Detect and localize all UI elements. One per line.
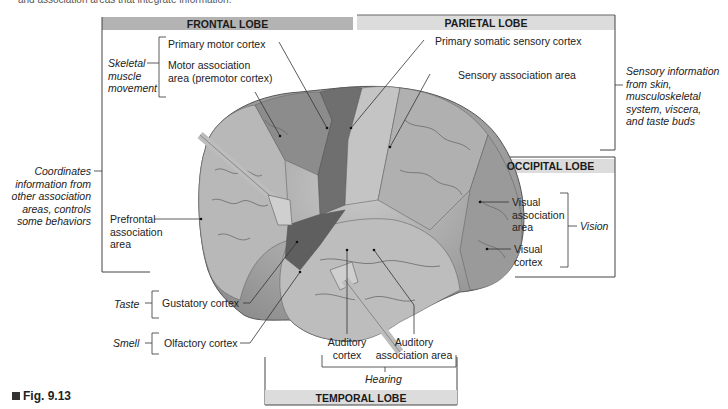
parietal-lobe-header: PARIETAL LOBE — [357, 16, 615, 30]
label-motor-association-area: Motor association area (premotor cortex) — [168, 59, 272, 84]
function-skeletal-muscle-movement: Skeletal muscle movement — [108, 57, 157, 95]
label-prefrontal-association-area: Prefrontal association area — [110, 213, 163, 251]
label-line: and taste buds — [626, 115, 719, 128]
label-visual-cortex: Visual cortex — [514, 243, 543, 268]
label-olfactory-cortex: Olfactory cortex — [164, 337, 238, 350]
label-line: Auditory — [374, 336, 454, 349]
label-line: from skin, — [626, 78, 719, 91]
function-sensory-information: Sensory information from skin, musculosk… — [626, 65, 719, 128]
figure-label-text: Fig. 9.13 — [23, 389, 71, 403]
function-vision: Vision — [580, 220, 608, 233]
label-line: Visual — [512, 196, 565, 209]
temporal-lobe-header: TEMPORAL LOBE — [265, 391, 457, 405]
label-gustatory-cortex: Gustatory cortex — [162, 297, 239, 310]
label-line: some behaviors — [0, 215, 91, 228]
label-line: Motor association — [168, 59, 272, 72]
label-line: Skeletal — [108, 57, 157, 70]
label-line: system, viscera, — [626, 103, 719, 116]
label-line: Sensory information — [626, 65, 719, 78]
label-line: Coordinates — [0, 165, 91, 178]
label-auditory-cortex: Auditory cortex — [326, 336, 368, 361]
label-line: movement — [108, 82, 157, 95]
function-smell: Smell — [113, 337, 139, 350]
label-line: muscle — [108, 70, 157, 83]
label-sensory-association-area: Sensory association area — [458, 69, 576, 82]
function-taste: Taste — [114, 298, 139, 311]
label-line: Prefrontal — [110, 213, 163, 226]
function-coordinates: Coordinates information from other assoc… — [0, 165, 91, 228]
label-line: cortex — [514, 256, 543, 269]
label-line: Auditory — [326, 336, 368, 349]
label-primary-somatic-sensory-cortex: Primary somatic sensory cortex — [435, 35, 581, 48]
label-line: areas, controls — [0, 203, 91, 216]
label-line: area (premotor cortex) — [168, 72, 272, 85]
label-line: other association — [0, 190, 91, 203]
square-bullet-icon — [12, 392, 20, 400]
label-line: association area — [374, 349, 454, 362]
label-auditory-association-area: Auditory association area — [374, 336, 454, 361]
label-line: Visual — [514, 243, 543, 256]
frontal-lobe-header: FRONTAL LOBE — [102, 17, 353, 31]
label-line: area — [512, 221, 565, 234]
label-line: information from — [0, 178, 91, 191]
figure-label: Fig. 9.13 — [12, 389, 71, 403]
occipital-lobe-header: OCCIPITAL LOBE — [486, 159, 615, 173]
label-line: musculoskeletal — [626, 90, 719, 103]
label-visual-association-area: Visual association area — [512, 196, 565, 234]
label-line: area — [110, 238, 163, 251]
label-line: association — [110, 226, 163, 239]
label-line: cortex — [326, 349, 368, 362]
label-primary-motor-cortex: Primary motor cortex — [168, 38, 265, 51]
function-hearing: Hearing — [365, 373, 402, 386]
label-line: association — [512, 209, 565, 222]
